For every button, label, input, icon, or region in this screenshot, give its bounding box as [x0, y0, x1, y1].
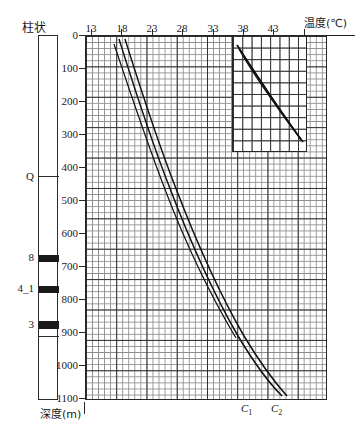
curve-c1-tail [114, 44, 236, 338]
inset-curve-c1-branch [237, 45, 302, 141]
y-tick-label-1: 100 [44, 62, 78, 74]
inset-temperature-curves [233, 36, 308, 153]
y-tick-label-11: 1100 [38, 392, 78, 404]
well-temperature-log-figure: 柱状 温度(℃) 深度(m) Q 8 4_1 3 13 18 23 28 33 … [0, 0, 361, 431]
curve-label-c1: C1 [241, 402, 252, 417]
y-tick-label-0: 0 [44, 29, 78, 41]
curve-label-c2: C2 [271, 402, 282, 417]
lithology-label-8: 8 [8, 251, 34, 263]
inset-detail-panel [232, 35, 307, 152]
lithology-label-3: 3 [8, 318, 34, 330]
lithology-column-header: 柱状 [22, 22, 46, 34]
y-axis-title: 深度(m) [40, 409, 81, 420]
y-tick-label-10: 1000 [38, 359, 78, 371]
lithology-label-4_1: 4_1 [2, 282, 34, 294]
y-tick-label-3: 300 [44, 128, 78, 140]
y-tick-label-6: 600 [44, 227, 78, 239]
y-tick-label-7: 700 [44, 260, 78, 272]
lithology-contact-q [39, 176, 59, 177]
y-tick-label-8: 800 [44, 293, 78, 305]
x-axis-extension-rule [327, 35, 355, 36]
lithology-column [38, 35, 58, 400]
lithology-band-4_1 [39, 286, 59, 293]
y-axis-extension-rule [84, 402, 85, 414]
y-tick-label-9: 900 [44, 326, 78, 338]
lithology-label-q: Q [8, 170, 34, 182]
y-tick-label-5: 500 [44, 194, 78, 206]
y-tick-label-4: 400 [44, 161, 78, 173]
y-tick-label-2: 200 [44, 95, 78, 107]
x-axis-title: 温度(℃) [304, 18, 347, 29]
